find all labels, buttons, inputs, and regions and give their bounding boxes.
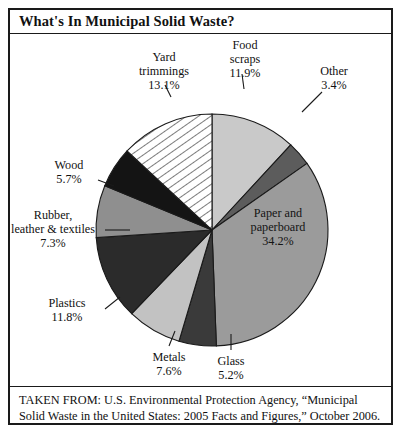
slice-label-paper-and-paperboard: Paper and paperboard 34.2% bbox=[216, 206, 340, 249]
slice-label-plastics: Plastics 11.8% bbox=[32, 296, 102, 324]
slice-label-yard-trimmings: Yard trimmings 13.1% bbox=[114, 50, 214, 93]
slice-label-metals: Metals 7.6% bbox=[134, 350, 204, 378]
source-line-2: Solid Waste in the United States: 2005 F… bbox=[19, 409, 382, 425]
figure-title-bar: What's In Municipal Solid Waste? bbox=[10, 10, 391, 34]
leader-line-plastics bbox=[105, 297, 120, 309]
page-title: What's In Municipal Solid Waste? bbox=[10, 13, 235, 30]
pie-chart-figure: What's In Municipal Solid Waste? bbox=[0, 0, 401, 433]
figure-source-caption: TAKEN FROM: U.S. Environmental Protectio… bbox=[10, 386, 391, 423]
source-line-1: TAKEN FROM: U.S. Environmental Protectio… bbox=[19, 393, 382, 409]
chart-plot-area: Yard trimmings 13.1% Food scraps 11.9% O… bbox=[10, 34, 391, 386]
slice-label-food-scraps: Food scraps 11.9% bbox=[202, 38, 288, 81]
slice-label-glass: Glass 5.2% bbox=[199, 354, 263, 382]
leader-line-other bbox=[302, 92, 322, 112]
slice-label-rubber-leather-textiles: Rubber, leather & textiles 7.3% bbox=[4, 208, 102, 251]
slice-label-wood: Wood 5.7% bbox=[34, 158, 104, 186]
slice-label-other: Other 3.4% bbox=[296, 64, 372, 92]
